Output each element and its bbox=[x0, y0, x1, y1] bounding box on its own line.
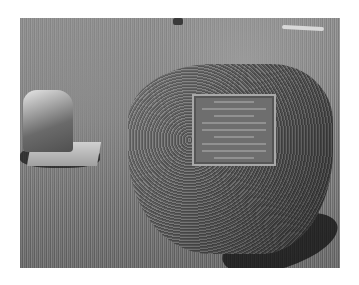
cemetery-photo bbox=[20, 18, 340, 268]
small-headstone bbox=[23, 90, 75, 160]
memorial-plaque bbox=[192, 94, 276, 166]
headstone-face bbox=[23, 90, 73, 152]
distant-grave-marker bbox=[173, 18, 183, 25]
